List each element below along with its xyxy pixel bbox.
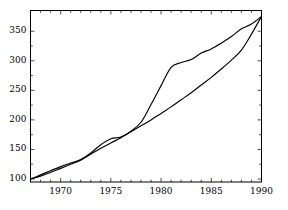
line-lower-series — [31, 16, 262, 179]
y-tick-label-200: 200 — [9, 115, 26, 124]
y-tick-label-150: 150 — [9, 144, 26, 153]
y-tick-label-350: 350 — [9, 26, 26, 35]
y-tick-label-300: 300 — [9, 56, 26, 65]
chart-plot-area — [0, 0, 288, 210]
y-tick-label-250: 250 — [9, 85, 26, 94]
tick-marks — [31, 11, 262, 183]
x-tick-label-1985: 1985 — [195, 187, 227, 196]
chart-container: 100150200250300350 19701975198019851990 — [0, 0, 288, 210]
x-tick-label-1975: 1975 — [95, 187, 127, 196]
y-tick-label-100: 100 — [9, 174, 26, 183]
x-tick-label-1980: 1980 — [145, 187, 177, 196]
x-tick-label-1990: 1990 — [246, 187, 278, 196]
x-tick-label-1970: 1970 — [45, 187, 77, 196]
line-upper-series — [31, 16, 262, 179]
axes-frame — [31, 11, 262, 183]
series-lines — [31, 16, 262, 179]
